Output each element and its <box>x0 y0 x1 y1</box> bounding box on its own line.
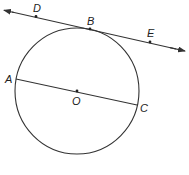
diagram-svg <box>0 0 189 175</box>
label-d: D <box>33 3 41 14</box>
point-e <box>149 41 152 44</box>
point-b <box>89 28 92 31</box>
point-d <box>35 15 38 18</box>
label-o: O <box>72 96 81 107</box>
label-c: C <box>140 103 148 114</box>
tangent-line-arrow-right <box>170 48 185 51</box>
label-e: E <box>147 28 154 39</box>
point-o <box>76 90 79 93</box>
label-b: B <box>87 16 94 27</box>
label-a: A <box>5 74 12 85</box>
geometry-diagram: D B E A O C <box>0 0 189 175</box>
